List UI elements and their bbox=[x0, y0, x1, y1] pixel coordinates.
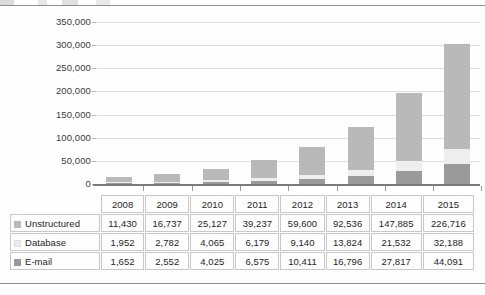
table-row: Unstructured11,43016,73725,12739,23759,6… bbox=[10, 214, 474, 232]
table-cell: 13,824 bbox=[326, 233, 370, 251]
gridline bbox=[95, 22, 480, 23]
y-axis-label: 50,000 bbox=[19, 156, 91, 166]
bar-segment-e-mail-2013[interactable] bbox=[348, 176, 374, 184]
y-axis-tick bbox=[92, 161, 96, 162]
column-header-2008: 2008 bbox=[101, 195, 144, 213]
x-axis-tick bbox=[288, 186, 289, 191]
series-label-database[interactable]: Database bbox=[10, 233, 100, 251]
y-axis-tick bbox=[92, 138, 96, 139]
bar-column-2013[interactable] bbox=[348, 127, 374, 184]
table-cell: 92,536 bbox=[326, 214, 370, 232]
table-cell: 25,127 bbox=[190, 214, 234, 232]
x-axis-tick bbox=[433, 186, 434, 191]
table-cell: 44,091 bbox=[423, 252, 474, 270]
table-cell: 4,065 bbox=[190, 233, 234, 251]
bar-column-2011[interactable] bbox=[251, 160, 277, 184]
table-cell: 9,140 bbox=[280, 233, 324, 251]
column-header-2011: 2011 bbox=[235, 195, 279, 213]
column-header-2015: 2015 bbox=[423, 195, 474, 213]
table-cell: 16,737 bbox=[145, 214, 189, 232]
table-cell: 59,600 bbox=[280, 214, 324, 232]
table-cell: 32,188 bbox=[423, 233, 474, 251]
y-axis-tick bbox=[92, 45, 96, 46]
gridline bbox=[95, 68, 480, 69]
email-swatch bbox=[14, 259, 21, 266]
y-axis-tick-labels: 050,000100,000150,000200,000250,000300,0… bbox=[19, 8, 91, 194]
gridline bbox=[95, 161, 480, 162]
y-axis-label: 0 bbox=[19, 179, 91, 189]
table-cell: 11,430 bbox=[101, 214, 144, 232]
bottom-horizontal-rule bbox=[0, 283, 485, 284]
bar-segment-unstructured-2009[interactable] bbox=[154, 174, 180, 182]
table-header-row: 20082009201020112012201320142015 bbox=[10, 195, 474, 213]
x-axis-tick bbox=[143, 186, 144, 191]
y-axis-label: 350,000 bbox=[19, 17, 91, 27]
bar-column-2008[interactable] bbox=[106, 177, 132, 184]
gridline bbox=[95, 115, 480, 116]
bar-segment-e-mail-2015[interactable] bbox=[444, 164, 470, 184]
bar-column-2009[interactable] bbox=[154, 174, 180, 184]
column-header-2010: 2010 bbox=[190, 195, 234, 213]
x-axis-tick bbox=[337, 186, 338, 191]
table-row: E-mail1,6522,5524,0256,57510,41116,79627… bbox=[10, 252, 474, 270]
table-cell: 6,575 bbox=[235, 252, 279, 270]
table-corner-cell bbox=[10, 195, 100, 213]
bar-segment-database-2015[interactable] bbox=[444, 149, 470, 164]
bar-column-2015[interactable] bbox=[444, 44, 470, 184]
y-axis-label: 300,000 bbox=[19, 40, 91, 50]
bar-column-2012[interactable] bbox=[299, 147, 325, 184]
column-header-2014: 2014 bbox=[371, 195, 422, 213]
x-axis-tick bbox=[192, 186, 193, 191]
table-cell: 2,552 bbox=[145, 252, 189, 270]
x-axis-tick bbox=[481, 186, 482, 191]
gridline bbox=[95, 45, 480, 46]
data-table: 20082009201020112012201320142015Unstruct… bbox=[9, 194, 475, 271]
y-axis-label: 200,000 bbox=[19, 86, 91, 96]
x-axis-line bbox=[93, 184, 480, 186]
table-cell: 21,532 bbox=[371, 233, 422, 251]
table-row: Database1,9522,7824,0656,1799,14013,8242… bbox=[10, 233, 474, 251]
stacked-bar-chart: 050,000100,000150,000200,000250,000300,0… bbox=[0, 8, 485, 194]
table-cell: 1,952 bbox=[101, 233, 144, 251]
table-cell: 226,716 bbox=[423, 214, 474, 232]
y-axis-label: 250,000 bbox=[19, 63, 91, 73]
y-axis-label: 100,000 bbox=[19, 133, 91, 143]
unstructured-swatch bbox=[14, 221, 21, 228]
bar-segment-database-2014[interactable] bbox=[396, 161, 422, 171]
bar-segment-unstructured-2015[interactable] bbox=[444, 44, 470, 149]
column-header-2012: 2012 bbox=[280, 195, 324, 213]
bar-column-2010[interactable] bbox=[203, 169, 229, 184]
table-cell: 4,025 bbox=[190, 252, 234, 270]
y-axis-tick bbox=[92, 115, 96, 116]
gridline bbox=[95, 138, 480, 139]
table-cell: 2,782 bbox=[145, 233, 189, 251]
table-cell: 27,817 bbox=[371, 252, 422, 270]
table-cell: 147,885 bbox=[371, 214, 422, 232]
table-cell: 6,179 bbox=[235, 233, 279, 251]
column-header-2013: 2013 bbox=[326, 195, 370, 213]
series-label-unstructured[interactable]: Unstructured bbox=[10, 214, 100, 232]
series-label-text: Database bbox=[25, 237, 66, 248]
table-cell: 10,411 bbox=[280, 252, 324, 270]
bar-segment-e-mail-2014[interactable] bbox=[396, 171, 422, 184]
series-label-text: E-mail bbox=[25, 256, 52, 267]
table-cell: 16,796 bbox=[326, 252, 370, 270]
x-axis-tick bbox=[240, 186, 241, 191]
y-axis-tick bbox=[92, 22, 96, 23]
bar-segment-unstructured-2010[interactable] bbox=[203, 169, 229, 181]
bar-column-2014[interactable] bbox=[396, 93, 422, 184]
figure-container: 050,000100,000150,000200,000250,000300,0… bbox=[0, 0, 485, 295]
y-axis-tick bbox=[92, 68, 96, 69]
table-cell: 39,237 bbox=[235, 214, 279, 232]
y-axis-label: 150,000 bbox=[19, 110, 91, 120]
bar-segment-unstructured-2014[interactable] bbox=[396, 93, 422, 161]
bar-segment-unstructured-2012[interactable] bbox=[299, 147, 325, 175]
x-axis-tick bbox=[385, 186, 386, 191]
bar-segment-unstructured-2013[interactable] bbox=[348, 127, 374, 170]
series-label-e-mail[interactable]: E-mail bbox=[10, 252, 100, 270]
y-axis-tick bbox=[92, 91, 96, 92]
bar-segment-unstructured-2011[interactable] bbox=[251, 160, 277, 178]
table-cell: 1,652 bbox=[101, 252, 144, 270]
series-label-text: Unstructured bbox=[25, 218, 80, 229]
top-horizontal-rule bbox=[0, 5, 485, 6]
